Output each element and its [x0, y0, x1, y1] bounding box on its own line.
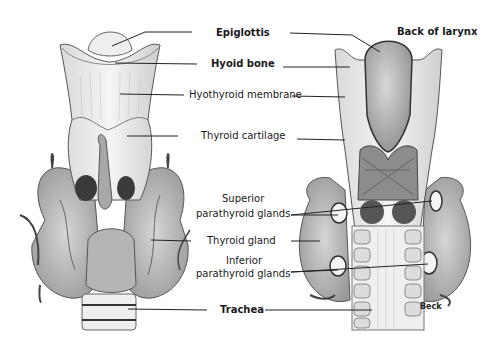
- label-trachea: Trachea: [220, 304, 264, 316]
- back-view: [299, 41, 470, 330]
- label-superior-parathyroid-glands: parathyroid glands: [196, 208, 290, 220]
- anatomy-figure: Epiglottis Back of larynx Hyoid bone Hyo…: [0, 0, 487, 350]
- label-epiglottis: Epiglottis: [216, 27, 270, 39]
- label-thyroid-cartilage: Thyroid cartilage: [201, 130, 286, 142]
- label-back-of-larynx: Back of larynx: [397, 26, 477, 38]
- label-hyoid-bone: Hyoid bone: [211, 58, 275, 70]
- label-inferior: Inferior: [226, 255, 262, 267]
- illustration: [0, 0, 487, 350]
- label-hyothyroid-membrane: Hyothyroid membrane: [189, 89, 302, 101]
- front-trachea: [82, 294, 136, 330]
- label-superior: Superior: [222, 193, 264, 205]
- artist-signature: Beck: [420, 301, 442, 313]
- label-inferior-parathyroid-glands: parathyroid glands: [196, 268, 290, 280]
- back-trachea: [352, 226, 424, 330]
- front-view: [20, 32, 190, 330]
- label-thyroid-gland: Thyroid gland: [207, 235, 276, 247]
- front-larynx: [60, 32, 160, 209]
